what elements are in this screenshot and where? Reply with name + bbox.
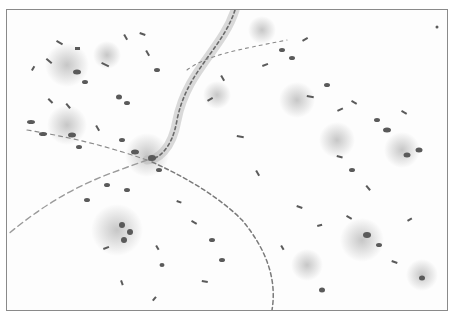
- micrograph-canvas: [7, 10, 447, 310]
- micrograph-image: [6, 9, 448, 311]
